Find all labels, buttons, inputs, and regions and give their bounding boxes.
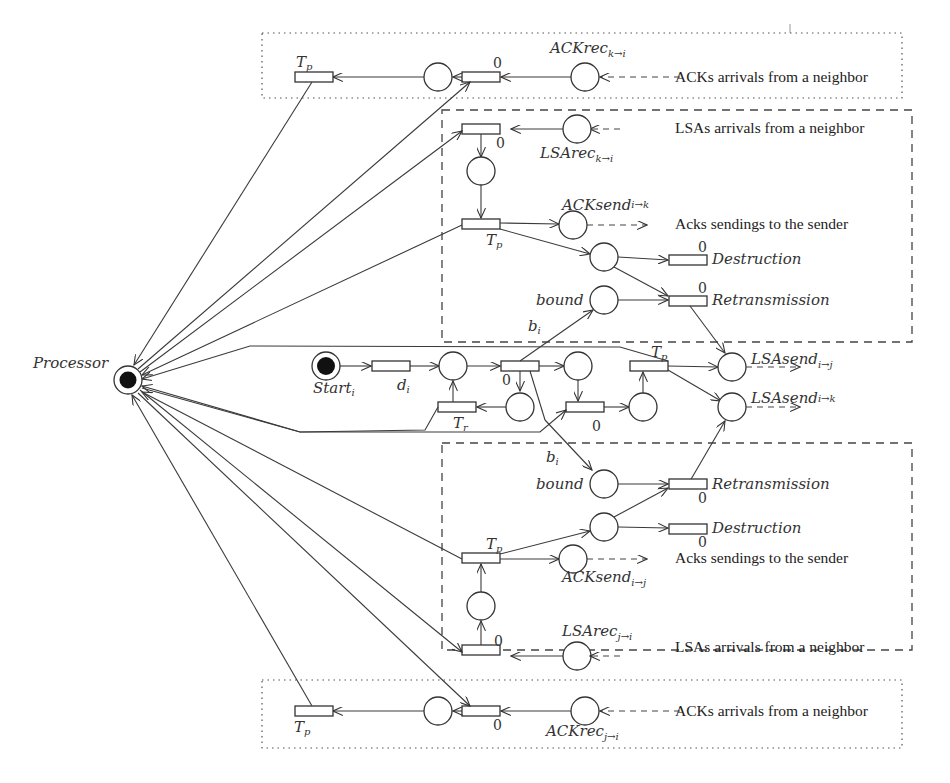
place-ackrec-k-i [571,63,599,91]
transition-middle-immediate [566,402,604,412]
place-lsa-sending [564,352,592,380]
place-bound-top [590,286,618,314]
transition-tp-ack-bottom [295,706,333,716]
label-retransmission-bottom: Retransmission [711,475,830,493]
label-zero: 0 [494,633,503,649]
transition-lsa-immediate-top [462,124,500,134]
label-acksend-i-j: ACKsendi→j [560,568,646,588]
place-retry-wait [506,393,534,421]
transition-tp-send [630,361,668,371]
label-tp-ack-bottom: Tp [294,718,311,737]
desc-acks-sendings-top: Acks sendings to the sender [675,215,849,232]
label-bi-top: bi [528,317,541,336]
label-zero: 0 [493,717,502,733]
label-tp-lsa-bottom: Tp [486,535,503,554]
transition-destruction-top [669,255,707,265]
transition-tp-lsa-bottom [462,553,500,563]
top-ack-chain [295,63,680,91]
transition-ack-immediate-bottom [462,706,500,716]
place-ack-buffer-top [424,63,452,91]
transition-tp-ack-top [295,72,333,82]
transition-send-immediate [501,361,539,371]
place-lsasend-i-k [718,393,746,421]
place-lsa-pending-bottom [590,513,618,541]
label-zero: 0 [502,372,511,388]
label-zero: 0 [493,55,502,71]
transition-di [372,361,410,371]
label-di: di [397,376,410,395]
place-tp-wait [629,393,657,421]
label-start-i: Starti [313,379,355,398]
label-ackrec-j-i: ACKrecj→i [544,722,619,742]
transition-ack-immediate-top [462,72,500,82]
place-lsa-ready [439,352,467,380]
label-tp-send: Tp [651,343,668,362]
transition-retransmission-top [669,296,707,306]
label-tp-lsa-top: Tp [486,231,503,250]
transition-retransmission-bottom [669,479,707,489]
bottom-ack-chain [295,697,680,725]
desc-ack-arrivals-top: ACKs arrivals from a neighbor [675,68,869,85]
desc-lsa-arrivals-top: LSAs arrivals from a neighbor [675,119,865,136]
label-tr: Tr [453,414,469,433]
label-lsarec-k-i: LSAreck→i [539,144,613,164]
label-bi-bottom: bi [546,448,559,467]
label-bound-top: bound [536,291,584,309]
desc-lsa-arrivals-bottom: LSAs arrivals from a neighbor [675,638,865,655]
label-lsarec-j-i: LSArecj→i [561,622,632,642]
transition-destruction-bottom [669,524,707,534]
place-lsarec-k-i [563,115,591,143]
transition-tr [438,402,476,412]
label-lsasend-i-k: LSAsendi→k [750,389,836,407]
middle-chain [312,306,800,481]
desc-acks-sendings-bottom: Acks sendings to the sender [675,549,849,566]
label-processor: Processor [32,354,109,372]
label-ackrec-k-i: ACKreck→i [548,39,626,59]
label-acksend-i-k: ACKsendi→k [560,196,649,214]
label-zero: 0 [592,418,601,434]
petri-net-diagram: Tp 0 ACKreck→i ACKs arrivals from a neig… [0,0,950,783]
place-lsa-buffer-top [467,157,495,185]
label-bound-bottom: bound [536,475,584,493]
desc-ack-arrivals-bottom: ACKs arrivals from a neighbor [675,702,869,719]
lower-lsa-region [442,443,912,650]
place-acksend-i-k [559,211,587,239]
label-zero: 0 [698,239,707,255]
label-zero: 0 [698,280,707,296]
label-zero: 0 [698,490,707,506]
label-retransmission-top: Retransmission [711,291,830,309]
token [120,372,137,389]
label-destruction-top: Destruction [711,250,801,268]
place-lsa-pending-top [590,243,618,271]
label-lsasend-i-j: LSAsendi→j [750,350,833,370]
label-zero: 0 [698,534,707,550]
token [317,357,335,375]
place-bound-bottom [590,470,618,498]
label-tp-ack-top: Tp [296,53,313,72]
place-lsarec-j-i [563,642,591,670]
label-destruction-bottom: Destruction [711,519,801,537]
label-zero: 0 [496,135,505,151]
transition-tp-lsa-top [462,219,500,229]
place-ack-buffer-bottom [424,697,452,725]
processor-arcs [132,82,668,706]
place-lsa-buffer-bottom [467,592,495,620]
place-lsasend-i-j [718,353,746,381]
place-ackrec-j-i [571,697,599,725]
